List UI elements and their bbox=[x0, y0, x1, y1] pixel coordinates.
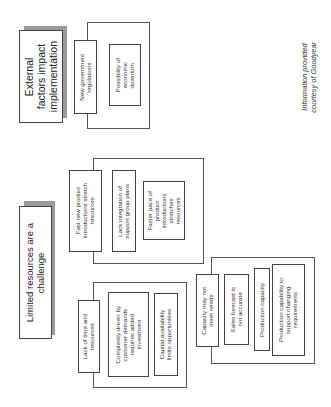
item-faster-pace: Faster pace of product introductions str… bbox=[143, 181, 185, 240]
item-sales-forecast: Sales forecast is not accurate bbox=[224, 274, 249, 345]
item-fast-new-product: Fast new product introductions stretch r… bbox=[69, 170, 102, 252]
credit-text: Information provided courtesy of Goodyea… bbox=[298, 26, 322, 128]
item-production-capability: Production capability to support changin… bbox=[272, 264, 305, 356]
item-lack-integration: Lack integration of support group plans bbox=[112, 170, 136, 252]
item-capacity-may-not: Capacity may not meet needs bbox=[196, 274, 219, 347]
heading-external-factors: External factors impact implementation bbox=[19, 30, 63, 123]
item-possibility-economic-downturn: Possibility of economic downturn bbox=[109, 44, 141, 106]
heading-limited-resources: Limited resources are a challenge bbox=[19, 206, 52, 339]
item-production-capacity: Production capacity bbox=[254, 268, 270, 351]
heading-external-factors-text: External factors impact implementation bbox=[23, 41, 59, 112]
item-lack-of-time: Lack of time and resources bbox=[78, 300, 100, 373]
item-complexity: Complexity driven by customer demands re… bbox=[108, 292, 149, 377]
item-new-government-regulations: New government regulations bbox=[74, 40, 97, 114]
heading-limited-resources-text: Limited resources are a challenge bbox=[25, 223, 47, 322]
item-capital-availability: Capital availability limits opportunitie… bbox=[154, 293, 178, 376]
